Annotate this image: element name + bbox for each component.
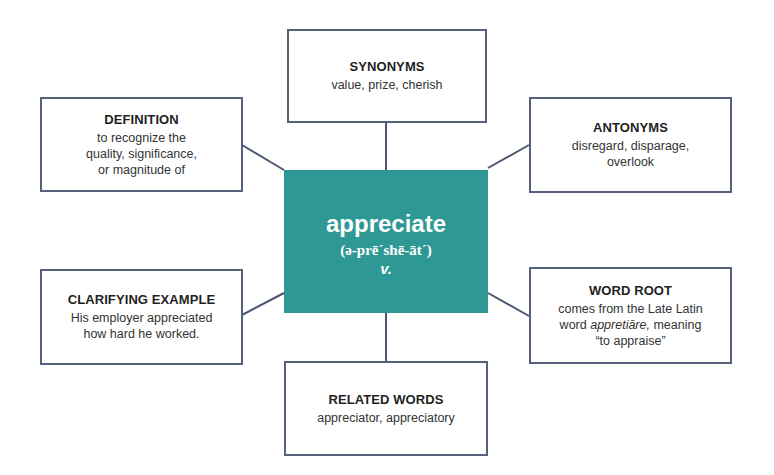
- center-word-box: appreciate (ə-prē´shē-āt´) v.: [284, 170, 488, 313]
- synonyms-box: SYNONYMS value, prize, cherish: [287, 29, 487, 123]
- word-root-text: comes from the Late Latin word appretiār…: [558, 301, 703, 349]
- definition-line: to recognize the: [86, 130, 197, 146]
- synonyms-title: SYNONYMS: [349, 59, 424, 74]
- word-root-title: WORD ROOT: [589, 283, 672, 298]
- word-root-box: WORD ROOT comes from the Late Latin word…: [529, 267, 732, 364]
- definition-text: to recognize the quality, significance, …: [86, 130, 197, 178]
- related-words-box: RELATED WORDS appreciator, appreciatory: [284, 361, 488, 456]
- connector-antonyms: [488, 145, 529, 168]
- latin-word: appretiāre,: [590, 318, 650, 332]
- word-map-diagram: SYNONYMS value, prize, cherish DEFINITIO…: [0, 0, 774, 475]
- word-root-line: comes from the Late Latin: [558, 301, 703, 317]
- related-words-text: appreciator, appreciatory: [317, 410, 455, 426]
- word-root-line: word appretiāre, meaning: [558, 317, 703, 333]
- word-root-line: “to appraise”: [558, 333, 703, 349]
- antonyms-box: ANTONYMS disregard, disparage, overlook: [529, 97, 732, 193]
- antonyms-line: disregard, disparage,: [572, 138, 689, 154]
- related-words-line: appreciator, appreciatory: [317, 410, 455, 426]
- clarifying-example-title: CLARIFYING EXAMPLE: [68, 292, 216, 307]
- pronunciation: (ə-prē´shē-āt´): [340, 240, 432, 260]
- definition-title: DEFINITION: [104, 112, 179, 127]
- definition-line: or magnitude of: [86, 162, 197, 178]
- related-words-title: RELATED WORDS: [328, 392, 443, 407]
- center-word: appreciate: [326, 210, 446, 238]
- clarifying-example-text: His employer appreciated how hard he wor…: [71, 310, 213, 342]
- synonyms-line: value, prize, cherish: [331, 77, 442, 93]
- clarifying-example-box: CLARIFYING EXAMPLE His employer apprecia…: [40, 269, 243, 365]
- antonyms-title: ANTONYMS: [593, 120, 668, 135]
- part-of-speech: v.: [380, 260, 392, 278]
- antonyms-text: disregard, disparage, overlook: [572, 138, 689, 170]
- connector-word-root: [488, 293, 529, 316]
- clarifying-example-line: His employer appreciated: [71, 310, 213, 326]
- clarifying-example-line: how hard he worked.: [71, 326, 213, 342]
- antonyms-line: overlook: [572, 154, 689, 170]
- connector-definition: [242, 145, 284, 170]
- connector-clarifying-example: [242, 293, 284, 315]
- definition-box: DEFINITION to recognize the quality, sig…: [40, 97, 243, 192]
- synonyms-text: value, prize, cherish: [331, 77, 442, 93]
- definition-line: quality, significance,: [86, 146, 197, 162]
